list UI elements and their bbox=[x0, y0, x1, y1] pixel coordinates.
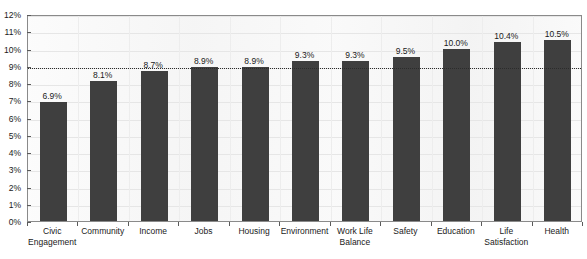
bar[interactable] bbox=[292, 61, 319, 221]
y-tick-label: 6% bbox=[9, 114, 21, 123]
reference-line bbox=[28, 68, 581, 69]
x-category-label: CivicEngagement bbox=[28, 226, 76, 248]
bar-value-label: 8.1% bbox=[93, 70, 112, 80]
y-tick-label: 4% bbox=[9, 149, 21, 158]
bar-value-label: 9.3% bbox=[345, 50, 364, 60]
y-tick-label: 5% bbox=[9, 131, 21, 140]
y-tick-mark bbox=[27, 170, 31, 171]
gridline-vertical bbox=[482, 16, 483, 221]
x-tick-mark bbox=[330, 222, 331, 226]
x-category-label: Housing bbox=[238, 226, 269, 237]
y-tick-label: 7% bbox=[9, 97, 21, 106]
bar-value-label: 10.5% bbox=[545, 29, 569, 39]
bar[interactable] bbox=[393, 57, 420, 221]
x-category-label-line2: Balance bbox=[337, 237, 373, 248]
x-category-label: Environment bbox=[281, 226, 329, 237]
gridline-vertical bbox=[179, 16, 180, 221]
bar[interactable] bbox=[443, 49, 470, 222]
x-category-label-line1: Health bbox=[544, 226, 569, 236]
x-category-label-line1: Safety bbox=[393, 226, 417, 236]
y-tick-mark bbox=[27, 205, 31, 206]
x-tick-mark bbox=[481, 222, 482, 226]
bar[interactable] bbox=[342, 61, 369, 221]
y-tick-mark bbox=[27, 101, 31, 102]
gridline-horizontal bbox=[28, 16, 581, 17]
bar-value-label: 9.3% bbox=[295, 50, 314, 60]
y-tick-label: 9% bbox=[9, 62, 21, 71]
gridline-vertical bbox=[129, 16, 130, 221]
x-tick-mark bbox=[229, 222, 230, 226]
bar-value-label: 10.0% bbox=[444, 38, 468, 48]
x-tick-mark bbox=[431, 222, 432, 226]
bar-value-label: 10.4% bbox=[494, 31, 518, 41]
bar-chart: 12%11%10%9%8%7%6%5%4%3%2%1%0% CivicEngag… bbox=[0, 0, 587, 259]
y-tick-mark bbox=[27, 188, 31, 189]
x-category-label: Jobs bbox=[195, 226, 213, 237]
x-category-label: LifeSatisfaction bbox=[484, 226, 528, 248]
x-category-label-line1: Civic bbox=[43, 226, 61, 236]
x-category-label-line1: Income bbox=[139, 226, 167, 236]
x-tick-mark bbox=[77, 222, 78, 226]
x-tick-mark bbox=[128, 222, 129, 226]
x-category-label-line2: Satisfaction bbox=[484, 237, 528, 248]
x-tick-mark bbox=[582, 222, 583, 226]
x-tick-mark bbox=[27, 222, 28, 226]
bar-value-label: 8.9% bbox=[244, 56, 263, 66]
x-category-label-line1: Work Life bbox=[337, 226, 373, 236]
x-category-label: Community bbox=[81, 226, 124, 237]
x-tick-mark bbox=[279, 222, 280, 226]
y-tick-label: 0% bbox=[9, 218, 21, 227]
x-category-label-line1: Community bbox=[81, 226, 124, 236]
y-tick-label: 11% bbox=[5, 28, 21, 37]
y-tick-mark bbox=[27, 32, 31, 33]
bar[interactable] bbox=[191, 67, 218, 221]
x-category-label: Health bbox=[544, 226, 569, 237]
y-tick-mark bbox=[27, 67, 31, 68]
x-axis: CivicEngagementCommunityIncomeJobsHousin… bbox=[27, 226, 582, 259]
gridline-vertical bbox=[331, 16, 332, 221]
x-category-label-line1: Environment bbox=[281, 226, 329, 236]
bar-value-label: 8.9% bbox=[194, 56, 213, 66]
bar[interactable] bbox=[90, 81, 117, 221]
bar[interactable] bbox=[40, 102, 67, 221]
y-tick-label: 12% bbox=[4, 11, 21, 20]
y-tick-mark bbox=[27, 136, 31, 137]
bar[interactable] bbox=[242, 67, 269, 221]
x-category-label: Safety bbox=[393, 226, 417, 237]
gridline-vertical bbox=[432, 16, 433, 221]
gridline-vertical bbox=[381, 16, 382, 221]
x-category-label-line1: Jobs bbox=[195, 226, 213, 236]
x-tick-mark bbox=[532, 222, 533, 226]
y-tick-label: 2% bbox=[9, 183, 21, 192]
y-tick-label: 1% bbox=[9, 200, 21, 209]
x-category-label: Education bbox=[437, 226, 475, 237]
y-tick-label: 10% bbox=[4, 45, 21, 54]
x-category-label-line1: Housing bbox=[238, 226, 269, 236]
x-tick-mark bbox=[380, 222, 381, 226]
plot-area bbox=[27, 15, 582, 222]
y-tick-mark bbox=[27, 15, 31, 16]
x-category-label-line1: Education bbox=[437, 226, 475, 236]
x-tick-mark bbox=[178, 222, 179, 226]
gridline-vertical bbox=[230, 16, 231, 221]
y-tick-mark bbox=[27, 84, 31, 85]
gridline-vertical bbox=[280, 16, 281, 221]
x-category-label-line1: Life bbox=[499, 226, 513, 236]
bar-value-label: 6.9% bbox=[43, 91, 62, 101]
y-tick-label: 8% bbox=[9, 80, 21, 89]
y-tick-mark bbox=[27, 153, 31, 154]
y-tick-label: 3% bbox=[9, 166, 21, 175]
chart-title bbox=[0, 0, 587, 3]
y-tick-mark bbox=[27, 50, 31, 51]
gridline-vertical bbox=[533, 16, 534, 221]
bar-value-label: 9.5% bbox=[396, 46, 415, 56]
x-category-label: Work LifeBalance bbox=[337, 226, 373, 248]
gridline-vertical bbox=[78, 16, 79, 221]
bar-value-label: 8.7% bbox=[143, 60, 162, 70]
x-category-label: Income bbox=[139, 226, 167, 237]
y-axis: 12%11%10%9%8%7%6%5%4%3%2%1%0% bbox=[0, 15, 25, 222]
bar[interactable] bbox=[141, 71, 168, 221]
y-tick-mark bbox=[27, 119, 31, 120]
x-category-label-line2: Engagement bbox=[28, 237, 76, 248]
